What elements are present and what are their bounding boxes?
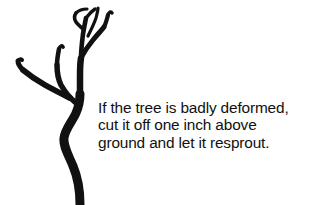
- tree-twig-center-left: [75, 13, 85, 30]
- tree-twig-center-left-tip: [76, 9, 87, 13]
- tree-branch-right-main-tip: [104, 15, 108, 27]
- tree-branch-middle-left-tip: [57, 49, 59, 65]
- tree-trunk-upper: [80, 58, 81, 94]
- tree-branch-lower-left-nub: [18, 59, 22, 61]
- caption-line-2: cut it off one inch above: [98, 116, 308, 133]
- tree-branch-middle-left-nub: [59, 46, 63, 49]
- tree-branch-middle-left: [57, 65, 75, 102]
- tree-branch-right-main-nub: [108, 12, 112, 15]
- caption-block: If the tree is badly deformed, cut it of…: [98, 99, 308, 151]
- caption-line-3: ground and let it resprout.: [98, 134, 308, 151]
- tree-trunk: [64, 94, 80, 204]
- figure-page: If the tree is badly deformed, cut it of…: [0, 0, 313, 205]
- caption-line-1: If the tree is badly deformed,: [98, 99, 308, 116]
